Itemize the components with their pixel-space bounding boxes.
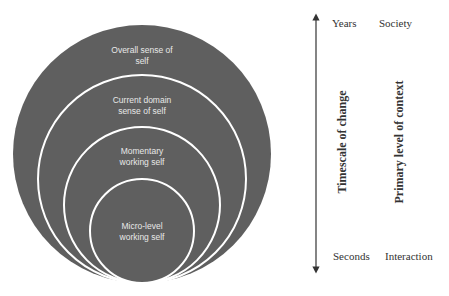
label-current-domain-sense-of-self: Current domain sense of self [82,95,202,117]
label-momentary-working-self: Momentary working self [82,146,202,168]
context-top-label: Society [379,17,412,29]
timescale-bottom-label: Seconds [333,250,370,262]
context-bottom-label: Interaction [385,250,433,262]
nested-self-diagram: Overall sense of self Current domain sen… [0,0,449,296]
label-micro-level-working-self: Micro-level working self [82,221,202,243]
timescale-axis-title: Timescale of change [335,90,350,193]
label-overall-sense-of-self: Overall sense of self [82,45,202,67]
diagram-graphics [0,0,449,296]
timescale-top-label: Years [332,17,357,29]
context-axis-title: Primary level of context [392,81,407,204]
